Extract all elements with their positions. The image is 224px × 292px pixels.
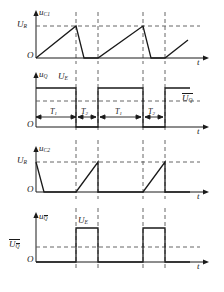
waveform-u-c2 bbox=[36, 162, 190, 192]
panel-u-qbar bbox=[33, 212, 209, 265]
interval-label-t1-second: T1 bbox=[115, 108, 122, 117]
time-axis-label-p2: t bbox=[197, 127, 200, 136]
panel-u-c2 bbox=[33, 146, 209, 195]
origin-label-p3: O bbox=[27, 185, 34, 194]
signal-label-u-c1: uC1 bbox=[39, 8, 50, 18]
x-axis-arrow-p3 bbox=[203, 189, 209, 194]
interval-label-t1-first: T1 bbox=[50, 108, 57, 117]
mean-label-uq-p2: UQ bbox=[182, 93, 193, 104]
panel-u-c1 bbox=[33, 10, 209, 61]
waveform-u-q bbox=[36, 88, 190, 127]
x-axis-arrow-p4 bbox=[203, 259, 209, 264]
level-label-ur-p3: UR bbox=[17, 156, 27, 166]
y-axis-arrow-p2 bbox=[33, 72, 38, 78]
origin-label-p4: O bbox=[27, 255, 34, 264]
y-axis-arrow-p1 bbox=[33, 10, 38, 16]
waveform-timing-figure: uC1 UR O t uQ UE UQ O t T1 T2 T1 T2 uC2 … bbox=[0, 0, 224, 292]
mean-label-uqbar-p4: UQ bbox=[9, 239, 20, 250]
time-axis-label-p4: t bbox=[197, 262, 200, 271]
y-axis-arrow-p3 bbox=[33, 146, 38, 152]
origin-label-p2: O bbox=[27, 120, 34, 129]
level-label-ue-p4: UE bbox=[78, 216, 88, 226]
x-axis-arrow-p2 bbox=[203, 124, 209, 129]
interval-label-t2-first: T2 bbox=[81, 108, 88, 117]
level-label-ue-p2: UE bbox=[58, 72, 68, 82]
signal-label-u-c2: uC2 bbox=[39, 144, 50, 154]
signal-label-u-qbar: uQ bbox=[39, 212, 48, 222]
origin-label-p1: O bbox=[27, 51, 34, 60]
interval-label-t2-second: T2 bbox=[148, 108, 155, 117]
x-axis-arrow-p1 bbox=[203, 55, 209, 60]
waveform-u-qbar bbox=[36, 228, 190, 262]
y-axis-arrow-p4 bbox=[33, 212, 38, 218]
time-marker-lines bbox=[76, 12, 165, 268]
time-axis-label-p3: t bbox=[197, 192, 200, 201]
time-axis-label-p1: t bbox=[197, 58, 200, 67]
waveform-canvas bbox=[0, 0, 224, 292]
signal-label-u-q: uQ bbox=[39, 70, 48, 80]
level-label-ur-p1: UR bbox=[17, 20, 27, 30]
